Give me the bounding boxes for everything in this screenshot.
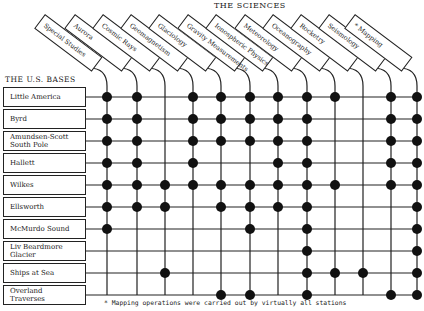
participation-dot [302,180,312,190]
base-label: Amundsen-Scott South Pole [3,131,86,151]
participation-dot [188,180,198,190]
participation-dot [386,158,396,168]
participation-dot [216,180,226,190]
participation-dot [412,114,422,124]
base-label: Byrd [3,109,86,129]
participation-dot [386,290,396,300]
participation-dot [302,158,312,168]
participation-dot [273,114,283,124]
base-label: Hallett [3,153,86,173]
participation-dot [132,202,142,212]
participation-dot [160,268,170,278]
participation-dot [273,92,283,102]
participation-dot [245,92,255,102]
participation-dot [216,92,226,102]
participation-dot [412,268,422,278]
participation-dot [160,202,170,212]
participation-dot [188,136,198,146]
base-label: Liv Beardmore Glacier [3,241,86,261]
participation-dot [386,114,396,124]
participation-dot [330,268,340,278]
participation-dot [102,136,112,146]
participation-dot [132,114,142,124]
participation-dot [102,202,112,212]
participation-dot [216,114,226,124]
participation-dot [102,114,112,124]
participation-dot [412,158,422,168]
base-label: McMurdo Sound [3,219,86,239]
participation-dot [132,136,142,146]
participation-dot [302,202,312,212]
base-label: Overland Traverses [3,285,86,305]
participation-dot [245,202,255,212]
participation-dot [330,92,340,102]
base-label: Ships at Sea [3,263,86,283]
base-label: Ellsworth [3,197,86,217]
participation-dot [330,180,340,190]
participation-dot [245,180,255,190]
participation-dot [273,136,283,146]
participation-dot [412,224,422,234]
base-label: Little America [3,87,86,107]
participation-dot [302,268,312,278]
participation-dot [216,136,226,146]
participation-dot [302,224,312,234]
participation-dot [412,180,422,190]
participation-dot [412,246,422,256]
participation-dot [102,180,112,190]
participation-dot [386,92,396,102]
participation-dot [188,158,198,168]
participation-dot [273,180,283,190]
participation-dot [188,114,198,124]
participation-dot [132,180,142,190]
footnote: * Mapping operations were carried out by… [104,299,346,307]
participation-dot [102,224,112,234]
participation-dot [102,158,112,168]
participation-dot [273,158,283,168]
participation-dot [302,92,312,102]
participation-dot [188,92,198,102]
participation-dot [412,136,422,146]
column-line [345,68,363,295]
participation-dot [358,268,368,278]
participation-dot [412,290,422,300]
participation-dot [273,202,283,212]
participation-dot [102,92,112,102]
participation-dot [245,224,255,234]
participation-dot [302,246,312,256]
participation-dot [245,114,255,124]
participation-dot [412,202,422,212]
participation-dot [386,136,396,146]
participation-dot [302,114,312,124]
participation-dot [160,180,170,190]
participation-dot [132,158,142,168]
base-label: Wilkes [3,175,86,195]
participation-dot [302,136,312,146]
participation-dot [132,92,142,102]
participation-dot [386,180,396,190]
participation-dot [216,202,226,212]
participation-dot [412,92,422,102]
participation-dot [245,136,255,146]
